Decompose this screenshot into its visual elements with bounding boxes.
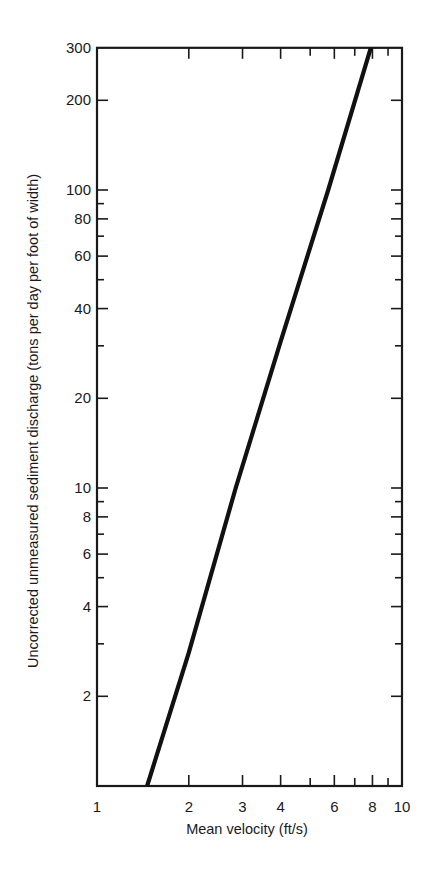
y-tick-label: 4 (83, 598, 91, 615)
x-tick-label: 8 (368, 798, 376, 815)
x-axis-label: Mean velocity (ft/s) (186, 821, 308, 837)
tick-labels: 1234681024681020406080100200300 (66, 39, 410, 815)
x-tick-label: 3 (238, 798, 246, 815)
y-tick-label: 6 (83, 545, 91, 562)
plot-frame (97, 48, 402, 786)
data-series (147, 48, 371, 786)
y-tick-label: 10 (74, 479, 91, 496)
y-tick-label: 40 (74, 300, 91, 317)
data-line (147, 48, 371, 786)
y-axis-label: Uncorrected unmeasured sediment discharg… (25, 174, 41, 668)
x-tick-label: 6 (330, 798, 338, 815)
axis-ticks (97, 48, 402, 786)
y-tick-label: 2 (83, 687, 91, 704)
y-tick-label: 20 (74, 389, 91, 406)
chart-figure: 1234681024681020406080100200300 Mean vel… (0, 0, 427, 882)
x-tick-label: 1 (93, 798, 101, 815)
y-tick-label: 100 (66, 181, 91, 198)
x-tick-label: 2 (185, 798, 193, 815)
y-tick-label: 300 (66, 39, 91, 56)
y-tick-label: 8 (83, 508, 91, 525)
y-tick-label: 200 (66, 91, 91, 108)
x-tick-label: 4 (276, 798, 284, 815)
chart-plot: 1234681024681020406080100200300 Mean vel… (0, 0, 427, 882)
x-tick-label: 10 (394, 798, 411, 815)
plot-border (97, 48, 402, 786)
y-tick-label: 60 (74, 247, 91, 264)
y-tick-label: 80 (74, 210, 91, 227)
